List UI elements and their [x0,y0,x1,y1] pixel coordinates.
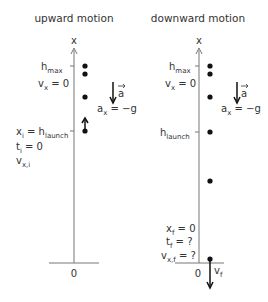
ax-label: ax = −g [221,103,261,117]
motion-diagrams: upward motion x 0 hmax vx = 0 xi = hlaun… [0,0,268,302]
vxf-label: vx,f = ? [161,250,196,264]
xf-label: xf = 0 [166,223,196,237]
hmax-label: hmax [41,61,63,75]
ax-label: ax = −g [97,103,137,117]
downward-motion-diagram: downward motion x 0 hmax vx = 0 hlaunch … [151,12,261,288]
ti-label: ti = 0 [16,141,43,155]
x-axis-label: x [71,35,77,46]
position-dot [207,63,212,68]
hlaunch-label: hlaunch [160,127,190,141]
position-dot [207,129,212,134]
final-dot [207,256,212,261]
position-dot [207,178,212,183]
upward-title: upward motion [34,12,113,24]
position-dot [207,94,212,99]
origin-label: 0 [195,268,201,279]
tf-label: tf = ? [166,236,192,250]
xi-label: xi = hlaunch [16,126,68,140]
position-dot [82,94,87,99]
a-vector-label: a [118,88,124,99]
position-dot [82,63,87,68]
vx-zero-label: vx = 0 [38,78,69,92]
downward-title: downward motion [151,12,245,24]
upward-motion-diagram: upward motion x 0 hmax vx = 0 xi = hlaun… [16,12,137,279]
hmax-label: hmax [169,61,191,75]
origin-label: 0 [71,268,77,279]
vxi-label: vx,i [16,155,30,169]
a-vector-label: a [241,88,247,99]
vf-label: vf [214,265,223,279]
x-axis-label: x [196,35,202,46]
vx-zero-label: vx = 0 [165,78,196,92]
launch-dot [82,128,87,133]
position-dot [82,71,87,76]
position-dot [207,71,212,76]
